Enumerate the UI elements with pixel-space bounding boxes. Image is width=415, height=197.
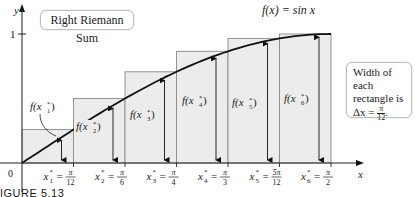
svg-text:*: * <box>47 100 50 107</box>
note-line-1: Width of each <box>353 66 411 92</box>
svg-text:): ) <box>151 108 155 121</box>
y-axis-label: y <box>13 4 19 16</box>
svg-text:x: x <box>94 170 100 182</box>
x-tick-label: x6*=π2 <box>300 163 333 187</box>
note-period: . <box>385 106 388 118</box>
y-axis-arrow-icon <box>19 4 25 12</box>
svg-text:6: 6 <box>307 177 311 185</box>
svg-text:π: π <box>223 168 228 177</box>
svg-text:f(x: f(x <box>182 94 194 107</box>
svg-text:x: x <box>300 170 306 182</box>
svg-text:*: * <box>256 168 260 176</box>
svg-text:=: = <box>57 170 63 182</box>
svg-text:π: π <box>68 168 73 177</box>
svg-text:f(x: f(x <box>76 120 88 133</box>
svg-text:2: 2 <box>326 178 330 187</box>
svg-text:4: 4 <box>204 177 208 185</box>
f-value-label: f(x6*) <box>282 92 312 106</box>
svg-text:): ) <box>97 120 101 133</box>
svg-text:*: * <box>301 92 304 99</box>
svg-text:5: 5 <box>256 177 260 185</box>
x-tick-label: x2*=π6 <box>94 163 127 187</box>
svg-text:*: * <box>307 168 311 176</box>
x-tick-label: x4*=π3 <box>197 163 230 187</box>
svg-text:): ) <box>305 92 309 105</box>
svg-text:f(x: f(x <box>130 108 142 121</box>
svg-text:): ) <box>253 96 257 109</box>
f-value-label: f(x4*) <box>180 94 210 108</box>
svg-text:*: * <box>101 168 105 176</box>
svg-text:=: = <box>211 170 217 182</box>
svg-text:f(x: f(x <box>284 92 296 105</box>
width-note-box: Width of each rectangle is Δx = π 12 . <box>346 62 412 118</box>
x-axis-label: x <box>357 168 363 180</box>
svg-text:): ) <box>203 94 207 107</box>
svg-text:=: = <box>108 170 114 182</box>
svg-text:5π: 5π <box>272 168 281 177</box>
svg-text:12: 12 <box>67 178 75 187</box>
svg-text:4: 4 <box>172 178 176 187</box>
svg-text:5: 5 <box>249 103 252 110</box>
svg-text:*: * <box>249 96 252 103</box>
x-tick-labels: x1*=π12x2*=π6x3*=π4x4*=π3x5*=5π12x6*=π2 <box>43 163 334 187</box>
svg-text:f(x: f(x <box>232 96 244 109</box>
svg-text:3: 3 <box>147 115 150 122</box>
origin-label: 0 <box>8 168 13 179</box>
f-value-label: f(x1*) <box>28 100 58 114</box>
svg-text:*: * <box>204 168 208 176</box>
svg-text:*: * <box>93 120 96 127</box>
svg-text:3: 3 <box>223 178 227 187</box>
svg-text:6: 6 <box>120 178 124 187</box>
f-value-label: f(x5*) <box>230 96 260 110</box>
svg-text:*: * <box>50 168 54 176</box>
svg-text:x: x <box>197 170 203 182</box>
svg-text:*: * <box>199 94 202 101</box>
svg-text:x: x <box>43 170 49 182</box>
svg-text:2: 2 <box>93 127 96 134</box>
x-tick-label: x1*=π12 <box>43 163 76 187</box>
x-tick-label: x5*=5π12 <box>249 163 282 187</box>
title-box: Right Riemann Sum <box>40 10 134 30</box>
function-label: f(x) = sin x <box>262 3 316 17</box>
figure-caption: IGURE 5.13 <box>0 187 64 197</box>
svg-text:π: π <box>120 168 125 177</box>
y-tick-label-1: 1 <box>10 28 16 40</box>
svg-text:π: π <box>326 168 331 177</box>
delta-x: Δx = <box>353 106 375 118</box>
x-tick-label: x3*=π4 <box>146 163 179 187</box>
svg-text:x: x <box>249 170 255 182</box>
svg-text:3: 3 <box>153 177 157 185</box>
note-line-3: Δx = π 12 . <box>353 105 411 122</box>
svg-text:*: * <box>147 108 150 115</box>
svg-text:2: 2 <box>101 177 105 185</box>
svg-text:12: 12 <box>273 178 281 187</box>
f-value-label: f(x3*) <box>128 108 158 122</box>
svg-text:1: 1 <box>50 177 54 185</box>
svg-text:1: 1 <box>47 107 50 114</box>
svg-text:f(x: f(x <box>30 100 42 113</box>
svg-text:π: π <box>171 168 176 177</box>
x-axis-arrow-icon <box>356 160 364 166</box>
svg-text:x: x <box>146 170 152 182</box>
svg-text:=: = <box>160 170 166 182</box>
svg-text:=: = <box>263 170 269 182</box>
svg-text:): ) <box>51 100 55 113</box>
svg-text:=: = <box>314 170 320 182</box>
f-value-label: f(x2*) <box>74 120 104 134</box>
svg-text:*: * <box>153 168 157 176</box>
